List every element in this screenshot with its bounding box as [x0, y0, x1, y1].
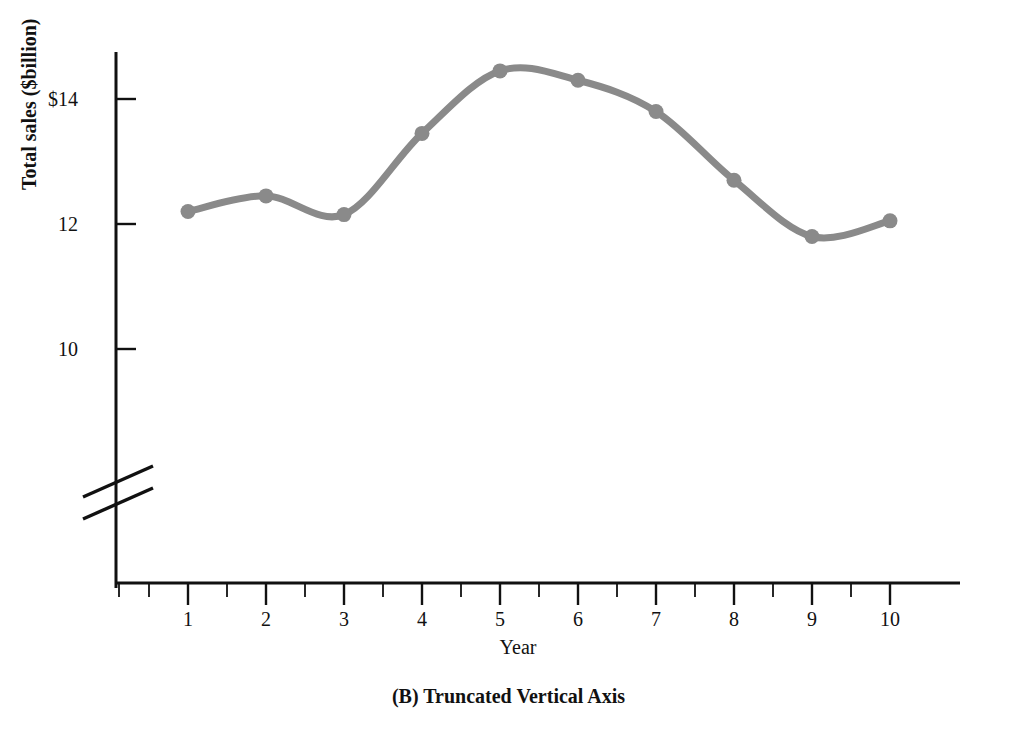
data-point-9: [805, 229, 820, 244]
data-point-10: [883, 213, 898, 228]
figure-caption: (B) Truncated Vertical Axis: [0, 685, 1017, 708]
x-tick-label-2: 2: [241, 608, 291, 631]
x-tick-label-5: 5: [475, 608, 525, 631]
y-tick-label-12: 12: [8, 213, 78, 236]
y-axis-title: Total sales ($billion): [18, 0, 41, 190]
x-axis-title: Year: [458, 636, 578, 659]
data-point-4: [415, 126, 430, 141]
x-tick-label-9: 9: [787, 608, 837, 631]
x-tick-label-10: 10: [865, 608, 915, 631]
data-point-3: [337, 207, 352, 222]
x-tick-label-6: 6: [553, 608, 603, 631]
data-series-line: [188, 68, 890, 238]
x-tick-label-3: 3: [319, 608, 369, 631]
data-point-2: [259, 188, 274, 203]
x-tick-label-4: 4: [397, 608, 447, 631]
axis-truncation-marker: [83, 466, 153, 519]
y-tick-label-10: 10: [8, 338, 78, 361]
chart-figure: $14 12 10 1 2 3 4 5 6 7 8 9 10 Total sal…: [0, 0, 1017, 740]
data-point-7: [649, 104, 664, 119]
x-tick-label-7: 7: [631, 608, 681, 631]
data-point-markers: [181, 63, 898, 244]
x-axis-minor-ticks: [119, 583, 851, 597]
x-tick-label-1: 1: [163, 608, 213, 631]
y-axis-major-ticks: [116, 99, 136, 349]
data-point-8: [727, 173, 742, 188]
x-tick-label-8: 8: [709, 608, 759, 631]
data-point-5: [493, 63, 508, 78]
data-point-6: [571, 73, 586, 88]
data-point-1: [181, 204, 196, 219]
